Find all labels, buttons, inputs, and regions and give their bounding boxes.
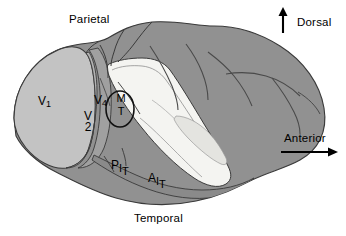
- label-v1: V1: [38, 95, 51, 109]
- label-ait: AIT: [148, 172, 166, 184]
- label-ait-c3: T: [159, 178, 166, 190]
- label-mt-bottom: T: [108, 105, 134, 118]
- label-v2: V2: [84, 110, 92, 133]
- label-v2-subscript: 2: [84, 121, 92, 133]
- label-v1-subscript: 1: [46, 99, 51, 109]
- label-pit-c1: P: [111, 158, 119, 172]
- label-v1-letter: V: [38, 94, 46, 108]
- label-anterior: Anterior: [284, 133, 326, 145]
- label-v4-letter: V: [94, 93, 102, 107]
- label-dorsal: Dorsal: [297, 17, 331, 29]
- label-pit: PIT: [111, 159, 129, 171]
- label-v4-subscript: 4: [102, 98, 107, 108]
- label-pit-c3: T: [122, 165, 129, 177]
- label-v4: V4: [94, 94, 107, 108]
- brain-diagram-figure: Parietal Temporal Dorsal Anterior V1 V4 …: [0, 0, 346, 236]
- brain-illustration: [0, 0, 346, 236]
- label-mt: MT: [108, 92, 134, 126]
- dorsal-arrow: [279, 7, 288, 33]
- label-ait-c1: A: [148, 171, 156, 185]
- label-mt-top: M: [108, 92, 134, 105]
- label-temporal: Temporal: [134, 213, 183, 225]
- label-parietal: Parietal: [69, 14, 110, 26]
